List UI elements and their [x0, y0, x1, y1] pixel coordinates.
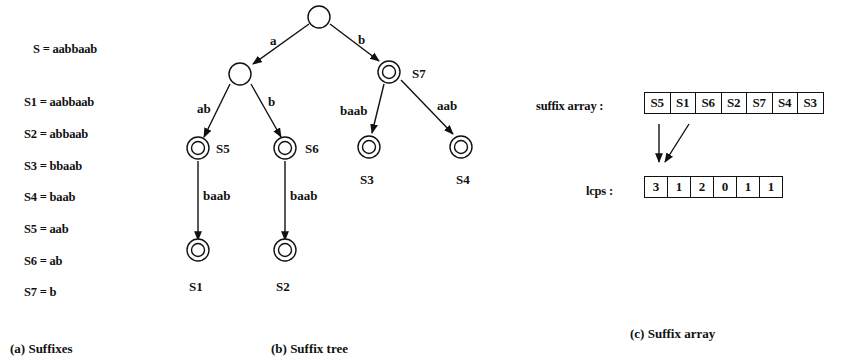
lcps-array: 3 1 2 0 1 1: [644, 176, 783, 198]
edge-a-s6: [251, 84, 281, 137]
node-label-s4: S4: [456, 172, 470, 187]
node-label-s7: S7: [412, 66, 426, 81]
node-root: [308, 6, 330, 28]
node-a: [229, 63, 251, 85]
lcps-cell: 0: [714, 177, 737, 197]
edge-root-a: [253, 24, 309, 64]
lcps-cell: 1: [668, 177, 691, 197]
edge-label-baab-s1: baab: [203, 188, 230, 203]
edge-label-baab-s3: baab: [340, 103, 367, 118]
node-label-s2: S2: [276, 279, 290, 294]
suffix-array-cell: S1: [671, 93, 697, 113]
edge-label-aab: aab: [437, 98, 457, 113]
suffix-array-cell: S6: [696, 93, 722, 113]
suffix-array: S5 S1 S6 S2 S7 S4 S3: [644, 92, 824, 114]
suffix-array-cell: S2: [722, 93, 748, 113]
lcps-cell: 2: [691, 177, 714, 197]
arrow-s1-to-lcp: [665, 124, 689, 162]
edge-label-b2: b: [268, 94, 275, 109]
edge-root-b: [330, 24, 379, 61]
caption-suffix-tree: (b) Suffix tree: [271, 341, 348, 357]
node-label-s3: S3: [360, 172, 374, 187]
lcps-cell: 1: [760, 177, 782, 197]
edge-label-baab-s2: baab: [290, 188, 317, 203]
node-label-s5: S5: [216, 141, 230, 156]
edge-label-a: a: [270, 33, 277, 48]
node-label-s1: S1: [189, 279, 203, 294]
node-label-s6: S6: [305, 141, 319, 156]
lcps-label: lcps :: [586, 184, 613, 199]
suffix-array-cell: S3: [798, 93, 823, 113]
edge-label-ab: ab: [197, 101, 211, 116]
lcps-cell: 3: [645, 177, 668, 197]
suffix-array-label: suffix array :: [536, 99, 603, 114]
edge-label-b: b: [358, 32, 365, 47]
edge-s7-s3: [372, 84, 384, 133]
suffix-array-cell: S7: [747, 93, 773, 113]
caption-suffix-array: (c) Suffix array: [630, 326, 715, 342]
lcps-cell: 1: [737, 177, 760, 197]
suffix-array-cell: S4: [773, 93, 799, 113]
suffix-array-cell: S5: [645, 93, 671, 113]
